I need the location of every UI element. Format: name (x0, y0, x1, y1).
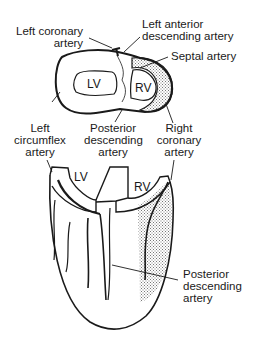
chamber-rv-bottom: RV (134, 180, 150, 194)
label-line: artery (14, 146, 66, 158)
label-line: Right (154, 122, 204, 134)
label-line: Septal artery (171, 50, 236, 62)
label-line: Left anterior (142, 18, 233, 30)
label-lad: Left anterior descending artery (142, 18, 233, 42)
label-line: Left (14, 122, 66, 134)
label-line: Posterior (84, 122, 142, 134)
cross-section (52, 37, 173, 123)
label-line: descending (183, 280, 242, 292)
label-line: Left coronary (16, 25, 83, 37)
label-left-coronary-artery: Left coronary artery (16, 25, 83, 49)
label-line: artery (84, 146, 142, 158)
posterior-view (47, 160, 178, 329)
chamber-lv-bottom: LV (74, 170, 88, 184)
label-posterior-descending-bottom: Posterior descending artery (183, 268, 242, 304)
chamber-lv-top: LV (87, 77, 101, 91)
label-posterior-descending-top: Posterior descending artery (84, 122, 142, 158)
label-line: artery (16, 37, 83, 49)
label-line: descending (84, 134, 142, 146)
label-right-coronary-artery: Right coronary artery (154, 122, 204, 158)
rv-stipple (138, 182, 172, 302)
label-left-circumflex-artery: Left circumflex artery (14, 122, 66, 158)
label-line: Posterior (183, 268, 242, 280)
label-line: artery (154, 146, 204, 158)
label-septal-artery: Septal artery (171, 50, 236, 62)
label-line: coronary (154, 134, 204, 146)
label-line: descending artery (142, 30, 233, 42)
chamber-rv-top: RV (135, 81, 151, 95)
label-line: artery (183, 292, 242, 304)
label-line: circumflex (14, 134, 66, 146)
